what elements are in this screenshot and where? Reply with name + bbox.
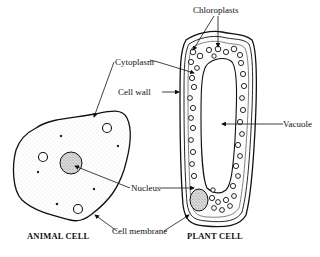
label-nucleus: Nucleus bbox=[131, 183, 161, 193]
animal-cell bbox=[14, 111, 131, 221]
plant-cell bbox=[180, 31, 257, 226]
animal-nucleus bbox=[60, 152, 82, 174]
label-cell-membrane: Cell membrane bbox=[112, 226, 167, 236]
plant-vacuole bbox=[201, 59, 237, 193]
label-vacuole: Vacuole bbox=[283, 119, 312, 129]
title-plant-cell: PLANT CELL bbox=[187, 231, 243, 241]
diagram-drawing bbox=[0, 0, 320, 257]
title-animal-cell: ANIMAL CELL bbox=[27, 231, 89, 241]
label-cell-wall: Cell wall bbox=[118, 87, 151, 97]
label-cytoplasm: Cytoplasm bbox=[115, 57, 154, 67]
plant-nucleus bbox=[190, 189, 208, 211]
cell-diagram: Chloroplasts Cytoplasm Cell wall Vacuole… bbox=[0, 0, 320, 257]
label-chloroplasts: Chloroplasts bbox=[193, 5, 239, 15]
